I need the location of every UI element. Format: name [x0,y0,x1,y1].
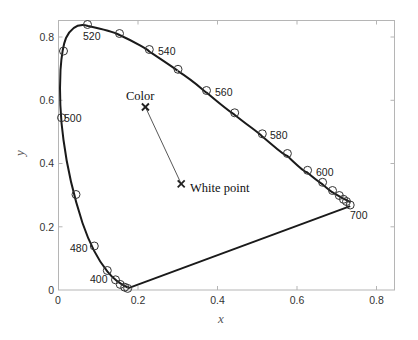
wavelength-label-560: 560 [215,86,233,98]
color-to-white-line [145,107,181,184]
color-annotation: Color [126,89,155,103]
x-ticks [59,21,377,291]
y-axis-label: y [12,150,27,158]
x-tick-label: 0 [55,294,61,306]
wavelength-label-400: 400 [90,273,108,285]
wavelength-label-700: 700 [350,209,368,221]
wavelength-label-580: 580 [270,129,288,141]
white-point-annotation: White point [190,181,250,195]
wavelength-label-480: 480 [70,242,88,254]
x-tick-label: 0.6 [290,294,305,306]
line-of-purples [128,206,351,288]
y-tick-label: 0.6 [39,94,54,106]
y-tick-label: 0.4 [39,157,54,169]
y-tick-label: 0.2 [39,221,54,233]
y-tick-label: 0.8 [39,31,54,43]
wavelength-label-500: 500 [64,112,82,124]
x-tick-label: 0.8 [369,294,384,306]
wavelength-label-600: 600 [316,166,334,178]
color-x-icon [142,104,149,111]
x-tick-label: 0.4 [210,294,225,306]
wavelength-markers [58,21,355,293]
white-point-x-icon [178,180,185,187]
wavelength-label-520: 520 [83,30,101,42]
y-tick-label: 0 [48,284,54,296]
spectral-locus-curve [60,25,350,287]
wavelength-label-540: 540 [158,45,176,57]
x-tick-label: 0.2 [131,294,146,306]
axes-frame [59,21,395,291]
chromaticity-diagram: 0 0.2 0.4 0.6 0.8 0 0.2 0.4 0.6 0.8 x y [0,0,418,340]
x-axis-label: x [217,311,224,326]
